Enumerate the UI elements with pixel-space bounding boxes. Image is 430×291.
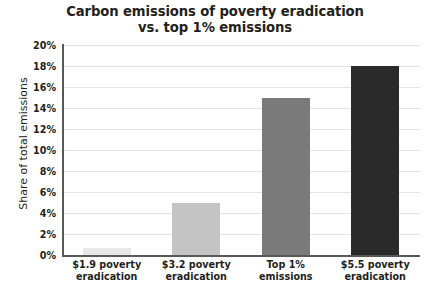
y-axis-tick-labels: 0%2%4%6%8%10%12%14%16%18%20% bbox=[8, 45, 56, 255]
x-axis-line bbox=[62, 255, 420, 257]
x-axis-category-label: $5.5 poverty eradication bbox=[331, 259, 421, 282]
y-axis-tick-label: 10% bbox=[10, 145, 56, 156]
y-axis-tick-label: 0% bbox=[10, 250, 56, 261]
gridline bbox=[62, 45, 420, 46]
y-axis-tick-label: 14% bbox=[10, 103, 56, 114]
y-axis-tick-label: 2% bbox=[10, 229, 56, 240]
x-axis-category-label: $3.2 poverty eradication bbox=[152, 259, 242, 282]
x-axis-category-label: $1.9 poverty eradication bbox=[62, 259, 152, 282]
y-axis-tick-label: 20% bbox=[10, 40, 56, 51]
y-axis-line bbox=[62, 44, 64, 256]
chart-title: Carbon emissions of poverty eradication … bbox=[40, 4, 390, 35]
y-axis-tick-label: 16% bbox=[10, 82, 56, 93]
x-axis-category-label: Top 1% emissions bbox=[241, 259, 331, 282]
bar[interactable] bbox=[172, 203, 220, 256]
plot-area bbox=[62, 45, 420, 255]
bar[interactable] bbox=[351, 66, 399, 255]
y-axis-tick-label: 12% bbox=[10, 124, 56, 135]
y-axis-tick-label: 4% bbox=[10, 208, 56, 219]
bar[interactable] bbox=[83, 248, 131, 255]
y-axis-tick-label: 18% bbox=[10, 61, 56, 72]
y-axis-tick-label: 8% bbox=[10, 166, 56, 177]
y-axis-tick-label: 6% bbox=[10, 187, 56, 198]
bar-chart: Carbon emissions of poverty eradication … bbox=[0, 0, 430, 291]
bar[interactable] bbox=[262, 98, 310, 256]
x-axis-category-labels: $1.9 poverty eradication$3.2 poverty era… bbox=[62, 259, 420, 291]
